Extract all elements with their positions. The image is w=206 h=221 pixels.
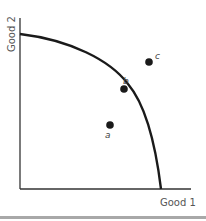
point-b xyxy=(120,85,128,93)
ppf-diagram: a b c Good 1 Good 2 xyxy=(0,0,206,221)
point-b-label: b xyxy=(123,76,129,86)
x-axis-label: Good 1 xyxy=(160,197,196,208)
y-axis-label: Good 2 xyxy=(6,16,17,52)
point-a xyxy=(106,121,114,129)
point-a-label: a xyxy=(105,130,111,140)
bottom-divider xyxy=(0,216,206,219)
ppf-curve xyxy=(20,34,161,189)
point-c-label: c xyxy=(155,51,160,61)
point-c xyxy=(145,58,153,66)
